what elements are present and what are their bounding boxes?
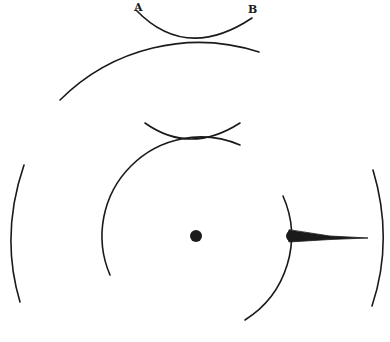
diagram-canvas <box>0 0 390 342</box>
right-outer-arc <box>372 170 383 306</box>
upper-arc-ab <box>136 10 252 38</box>
label-a: A <box>134 1 143 14</box>
tapered-spike <box>288 230 369 242</box>
label-b: B <box>248 3 257 16</box>
spike-knob <box>286 231 296 241</box>
center-dot <box>190 230 202 242</box>
middle-circle-arc <box>102 137 240 275</box>
outer-large-arc <box>60 42 259 100</box>
left-outer-arc <box>11 165 24 302</box>
middle-circle-right-arc <box>245 196 291 320</box>
